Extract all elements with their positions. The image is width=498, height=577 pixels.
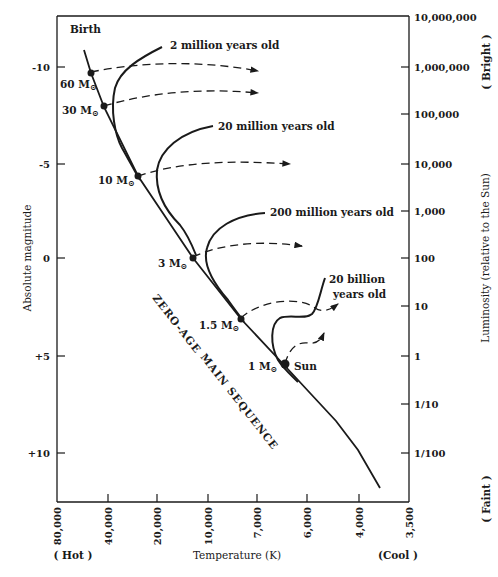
tick-label: 1 bbox=[414, 351, 421, 362]
star-label-10: 10 M⊙ bbox=[98, 174, 135, 188]
cool-label: (Cool ) bbox=[378, 549, 418, 561]
right-axis-labels: 10,000,000 1,000,000 100,000 10,000 1,00… bbox=[414, 12, 477, 459]
tick-label: 40,000 bbox=[103, 507, 115, 545]
star-dot-sun bbox=[281, 360, 290, 369]
star-label-1: 1 M⊙ bbox=[248, 360, 277, 374]
tick-label: 10,000 bbox=[203, 507, 215, 545]
left-axis-ticks bbox=[57, 67, 65, 453]
track-30-msun bbox=[104, 91, 258, 106]
hot-label: ( Hot ) bbox=[53, 549, 92, 561]
tick-label: 0 bbox=[43, 253, 50, 264]
bright-label: ( Bright ) bbox=[480, 34, 492, 89]
tick-label: +10 bbox=[28, 448, 50, 459]
tick-label: -10 bbox=[32, 62, 50, 73]
tick-label: 100,000 bbox=[414, 109, 459, 121]
tick-label: 1,000 bbox=[414, 206, 445, 218]
tick-label: 10,000,000 bbox=[414, 12, 477, 24]
tick-label: 100 bbox=[414, 253, 435, 264]
isochrone-20-million bbox=[157, 126, 213, 255]
track-3-msun bbox=[193, 243, 302, 257]
tick-label: -5 bbox=[39, 159, 50, 170]
plot-frame bbox=[57, 16, 409, 502]
left-axis-title: Absolute magnitude bbox=[21, 205, 33, 313]
tick-label: 10 bbox=[414, 301, 428, 312]
track-60-msun bbox=[91, 64, 258, 72]
isochrone-label-200-million: 200 million years old bbox=[270, 206, 395, 218]
zams-label-1: ZERO-AGE bbox=[150, 292, 203, 356]
tick-label: 1/100 bbox=[414, 448, 446, 459]
tick-label: 1,000,000 bbox=[414, 62, 470, 74]
bottom-axis-title: Temperature (K) bbox=[193, 549, 281, 561]
isochrone-label-20-billion-line2: years old bbox=[332, 288, 387, 300]
bottom-axis-labels: 80,000 40,000 20,000 10,000 7,000 6,000 … bbox=[52, 507, 416, 545]
star-dot-1-5 bbox=[238, 316, 245, 323]
hr-diagram: -10 -5 0 +5 +10 10,000,000 1,000,000 100… bbox=[0, 0, 498, 577]
tick-label: 6,000 bbox=[302, 507, 314, 538]
isochrone-label-2-million: 2 million years old bbox=[170, 39, 280, 51]
right-axis-ticks bbox=[401, 67, 409, 453]
tick-label: 20,000 bbox=[152, 507, 164, 545]
birth-label: Birth bbox=[70, 23, 101, 35]
star-label-30: 30 M⊙ bbox=[62, 104, 99, 118]
star-dot-3 bbox=[190, 255, 197, 262]
star-dot-10 bbox=[135, 173, 142, 180]
zero-age-main-sequence-line bbox=[84, 50, 380, 488]
star-dot-60 bbox=[88, 70, 95, 77]
faint-label: ( Faint ) bbox=[480, 475, 492, 522]
tick-label: 3,500 bbox=[404, 507, 416, 538]
star-label-60: 60 M⊙ bbox=[60, 78, 97, 92]
star-label-3: 3 M⊙ bbox=[158, 257, 187, 271]
star-label-1-5: 1.5 M⊙ bbox=[199, 319, 239, 333]
track-1-5-msun bbox=[241, 301, 338, 318]
sun-label: Sun bbox=[294, 360, 317, 372]
star-dot-30 bbox=[101, 103, 108, 110]
star-points bbox=[88, 70, 290, 369]
isochrone-label-20-billion-line1: 20 billion bbox=[329, 273, 386, 285]
tick-label: 10,000 bbox=[414, 159, 452, 171]
isochrone-label-20-million: 20 million years old bbox=[218, 120, 335, 132]
tick-label: 4,000 bbox=[354, 507, 366, 538]
right-axis-title: Luminosity (relative to the Sun) bbox=[479, 173, 491, 343]
tick-label: 80,000 bbox=[52, 507, 64, 545]
tick-label: 7,000 bbox=[252, 507, 264, 538]
isochrone-200-million bbox=[206, 213, 265, 322]
tick-label: +5 bbox=[35, 351, 50, 362]
isochrone-labels: 2 million years old 20 million years old… bbox=[170, 39, 395, 300]
tick-label: 1/10 bbox=[414, 399, 439, 410]
bottom-axis-ticks bbox=[108, 494, 359, 502]
track-10-msun bbox=[138, 162, 290, 176]
